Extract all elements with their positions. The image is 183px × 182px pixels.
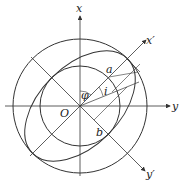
diagram-canvas: x y x′ y′ O φ i a b	[0, 0, 183, 182]
origin-label: O	[60, 107, 69, 120]
phi-label: φ	[81, 89, 89, 102]
y-axis-label: y	[171, 100, 179, 113]
x-prime-label: x′	[146, 34, 155, 47]
a-label: a	[106, 63, 113, 76]
construction-line-b	[94, 87, 127, 120]
x-axis-label: x	[76, 2, 83, 15]
y-prime-axis	[31, 57, 145, 171]
i-angle-arc	[99, 87, 103, 96]
b-label: b	[96, 126, 103, 139]
ellipse-construction-diagram: x y x′ y′ O φ i a b	[0, 0, 183, 182]
parallel-line-a	[127, 59, 140, 72]
y-prime-label: y′	[145, 168, 155, 181]
i-label: i	[104, 85, 108, 98]
